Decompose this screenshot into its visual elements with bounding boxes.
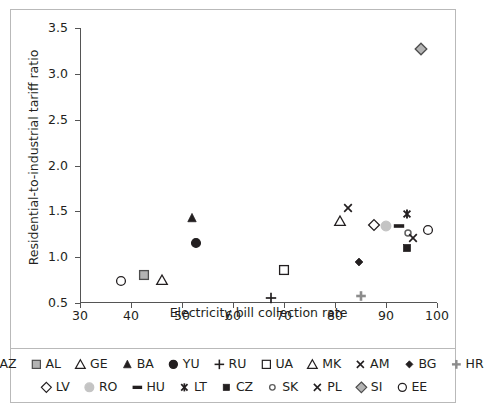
- data-point-ge: [154, 272, 170, 288]
- legend-item-ba[interactable]: BA: [120, 357, 154, 372]
- x-axis-line: [80, 302, 437, 303]
- dash-icon: [129, 380, 144, 395]
- legend-item-cz[interactable]: CZ: [219, 380, 253, 395]
- y-tick-label: 1.5: [48, 205, 68, 218]
- circle-fill-icon: [166, 357, 181, 372]
- legend-item-al[interactable]: AL: [29, 357, 62, 372]
- legend-label: UA: [275, 358, 293, 371]
- legend-item-yu[interactable]: YU: [166, 357, 200, 372]
- y-tick: 3.5: [75, 28, 80, 29]
- legend-label: PL: [327, 381, 342, 394]
- data-point-ba: [184, 210, 200, 226]
- data-point-mk: [332, 213, 348, 229]
- legend-row-2: LVROHULTCZSKPLSIEE: [11, 376, 455, 399]
- diamond-fill-icon: [401, 357, 416, 372]
- plus-gray-icon: [449, 357, 464, 372]
- legend-item-am[interactable]: AM: [353, 357, 389, 372]
- legend-label: SK: [282, 381, 298, 394]
- legend-label: RU: [229, 358, 247, 371]
- legend-label: HU: [146, 381, 165, 394]
- legend-label: EE: [411, 381, 427, 394]
- y-axis-line: [80, 28, 81, 303]
- y-tick: 1.5: [75, 211, 80, 212]
- legend-item-ro[interactable]: RO: [82, 380, 118, 395]
- triangle-open-icon: [305, 357, 320, 372]
- data-point-hu: [391, 218, 407, 234]
- data-point-bg: [351, 254, 367, 270]
- data-point-cz: [399, 240, 415, 256]
- legend-item-lv[interactable]: LV: [39, 380, 70, 395]
- legend-row-1: AZALGEBAYURUUAMKAMBGHR: [11, 353, 455, 376]
- data-point-ro: [378, 218, 394, 234]
- data-point-ua: [276, 262, 292, 278]
- legend-label: LV: [56, 381, 70, 394]
- legend-label: SI: [371, 381, 383, 394]
- cross-x-icon: [310, 380, 325, 395]
- legend-item-ge[interactable]: GE: [73, 357, 108, 372]
- y-tick-label: 1.0: [48, 251, 68, 264]
- y-tick-label: 3.5: [48, 22, 68, 35]
- x-axis-title: Electricity bill collection rate: [80, 305, 437, 320]
- legend-label: YU: [183, 358, 200, 371]
- plus-icon: [212, 357, 227, 372]
- data-point-al: [136, 267, 152, 283]
- cross-x-icon: [353, 357, 368, 372]
- legend-item-hr[interactable]: HR: [449, 357, 484, 372]
- y-tick: 2.5: [75, 120, 80, 121]
- legend-item-hu[interactable]: HU: [129, 380, 165, 395]
- legend-item-az[interactable]: AZ: [0, 357, 17, 372]
- y-tick-label: 2.0: [48, 159, 68, 172]
- legend-item-ru[interactable]: RU: [212, 357, 247, 372]
- circle-open-icon: [394, 380, 409, 395]
- y-tick-label: 3.0: [48, 68, 68, 81]
- legend-item-mk[interactable]: MK: [305, 357, 341, 372]
- diamond-gray-icon: [354, 380, 369, 395]
- asterisk-icon: [177, 380, 192, 395]
- plot-area: 0.51.01.52.02.53.03.5 30405060708090100: [80, 28, 437, 303]
- y-axis-title: Residential-to-industrial tariff ratio: [26, 33, 41, 283]
- data-point-am: [340, 200, 356, 216]
- y-tick: 2.0: [75, 166, 80, 167]
- data-point-ee: [420, 222, 436, 238]
- square-gray-icon: [29, 357, 44, 372]
- square-open-icon: [258, 357, 273, 372]
- y-tick: 3.0: [75, 74, 80, 75]
- data-point-sk: [400, 225, 416, 241]
- legend: AZALGEBAYURUUAMKAMBGHRLVROHULTCZSKPLSIEE: [11, 348, 455, 399]
- legend-label: LT: [194, 381, 207, 394]
- data-point-az: [113, 273, 129, 289]
- circle-gray-icon: [82, 380, 97, 395]
- legend-item-sk[interactable]: SK: [265, 380, 298, 395]
- legend-label: HR: [466, 358, 484, 371]
- square-fill-icon: [219, 380, 234, 395]
- legend-label: GE: [90, 358, 108, 371]
- legend-label: CZ: [236, 381, 253, 394]
- legend-label: MK: [322, 358, 341, 371]
- legend-label: AL: [46, 358, 62, 371]
- legend-label: BA: [137, 358, 154, 371]
- y-tick-label: 0.5: [48, 297, 68, 310]
- data-point-pl: [405, 230, 421, 246]
- legend-item-bg[interactable]: BG: [401, 357, 436, 372]
- data-point-lv: [366, 217, 382, 233]
- data-point-lt: [399, 206, 415, 222]
- y-tick-label: 2.5: [48, 113, 68, 126]
- legend-item-pl[interactable]: PL: [310, 380, 342, 395]
- data-point-si: [413, 41, 429, 57]
- legend-item-ee[interactable]: EE: [394, 380, 427, 395]
- legend-label: AZ: [0, 358, 17, 371]
- legend-label: AM: [370, 358, 389, 371]
- diamond-open-icon: [39, 380, 54, 395]
- legend-label: BG: [418, 358, 436, 371]
- triangle-fill-icon: [120, 357, 135, 372]
- circle-small-gray-icon: [265, 380, 280, 395]
- legend-item-si[interactable]: SI: [354, 380, 383, 395]
- legend-label: RO: [99, 381, 118, 394]
- y-tick: 1.0: [75, 257, 80, 258]
- triangle-open-icon: [73, 357, 88, 372]
- legend-item-lt[interactable]: LT: [177, 380, 207, 395]
- legend-item-ua[interactable]: UA: [258, 357, 293, 372]
- data-point-yu: [188, 235, 204, 251]
